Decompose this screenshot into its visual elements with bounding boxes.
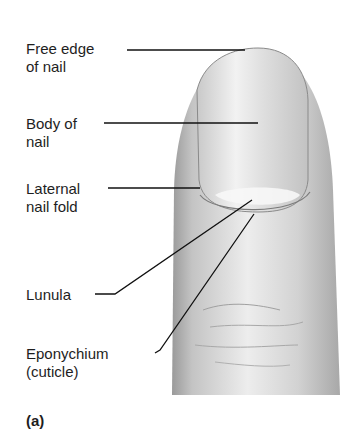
nail-plate <box>197 48 308 212</box>
label-free-edge: Free edge of nail <box>26 40 94 76</box>
panel-label: (a) <box>26 412 44 429</box>
label-body-of-nail: Body of nail <box>26 115 77 151</box>
label-lunula: Lunula <box>26 286 71 304</box>
label-lateral-nail-fold: Laternal nail fold <box>26 180 80 216</box>
label-eponychium: Eponychium (cuticle) <box>26 345 109 381</box>
